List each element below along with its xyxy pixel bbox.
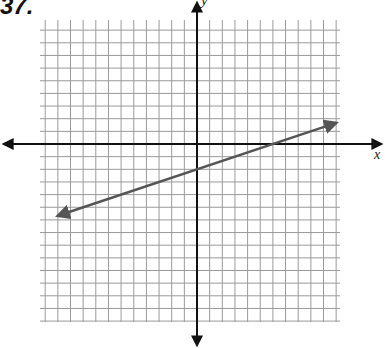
axes (4, 3, 381, 345)
coordinate-plane (0, 0, 385, 348)
